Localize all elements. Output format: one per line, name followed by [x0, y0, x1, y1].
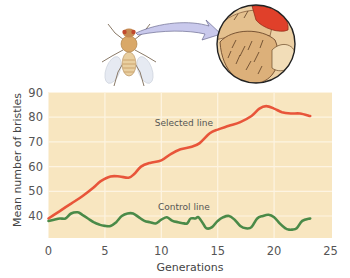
x-tick-label: 25 — [323, 244, 338, 258]
x-tick-label: 20 — [267, 244, 282, 258]
x-tick-label: 5 — [101, 244, 108, 258]
selected-line-label: Selected line — [155, 118, 214, 128]
control-line-label: Control line — [158, 202, 210, 212]
y-tick-label: 60 — [28, 160, 43, 174]
x-axis-ticks: 0510152025 — [45, 244, 338, 258]
x-tick-label: 10 — [154, 244, 169, 258]
y-tick-label: 80 — [28, 110, 43, 124]
y-tick-label: 50 — [28, 184, 43, 198]
bristle-line-chart: 405060708090 0510152025 Selected lineCon… — [0, 0, 350, 278]
y-axis-ticks: 405060708090 — [28, 86, 43, 224]
x-axis-title: Generations — [156, 261, 223, 274]
y-tick-label: 90 — [28, 86, 43, 100]
y-tick-label: 70 — [28, 135, 43, 149]
y-axis-title: Mean number of bristles — [11, 93, 24, 227]
x-tick-label: 0 — [45, 244, 52, 258]
y-tick-label: 40 — [28, 209, 43, 223]
x-tick-label: 15 — [210, 244, 225, 258]
